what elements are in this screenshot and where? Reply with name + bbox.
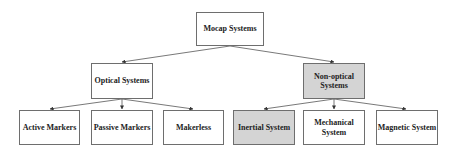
node-mechanical-system: Mechanical System [303, 110, 365, 145]
node-optical-systems: Optical Systems [91, 63, 153, 99]
node-passive-markers: Passive Markers [91, 110, 153, 145]
node-non-optical-systems: Non-optical Systems [303, 63, 365, 99]
node-label: Passive Markers [94, 123, 151, 132]
node-label: Mocap Systems [203, 24, 256, 33]
node-label: Active Markers [23, 123, 77, 132]
node-label: Non-optical Systems [312, 72, 356, 90]
node-magnetic-system: Magnetic System [376, 110, 438, 145]
node-label: Mechanical System [314, 118, 354, 136]
node-label: Makerless [176, 123, 211, 132]
node-inertial-system: Inertial System [233, 110, 295, 145]
node-label: Optical Systems [95, 76, 150, 85]
node-makerless: Makerless [163, 110, 224, 145]
node-active-markers: Active Markers [19, 110, 80, 145]
node-label: Magnetic System [378, 123, 436, 132]
node-mocap-systems: Mocap Systems [196, 12, 264, 46]
node-label: Inertial System [238, 123, 290, 132]
